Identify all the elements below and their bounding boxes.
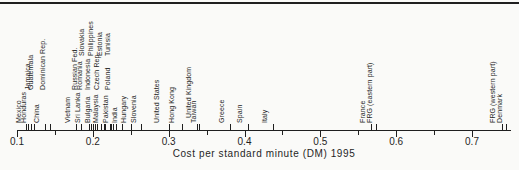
- country-label: Slovakia: [78, 29, 86, 56]
- x-axis-line: [17, 130, 511, 131]
- x-minor-tick: [207, 131, 208, 135]
- country-label: India: [111, 107, 119, 123]
- country-label: Estonia: [96, 32, 104, 56]
- country-label: Philippines: [87, 21, 95, 56]
- country-label: Sri Lanka: [74, 93, 82, 123]
- country-label: Italy: [261, 110, 269, 123]
- x-minor-tick: [282, 131, 283, 135]
- country-tick: [113, 124, 114, 130]
- country-tick: [76, 124, 77, 130]
- country-label: Honduras: [20, 92, 28, 123]
- country-tick: [273, 124, 274, 130]
- country-tick: [28, 124, 29, 130]
- strip-plot-figure: MexicoHondurasJamaicaGuatemalaChinaDomin…: [0, 0, 519, 170]
- country-label: Hong Kong: [168, 87, 176, 123]
- country-tick: [111, 124, 112, 130]
- country-tick: [502, 124, 503, 130]
- x-tick-label: 0.1: [4, 136, 30, 147]
- country-label: Dominican Rep.: [39, 39, 47, 90]
- country-tick: [141, 124, 142, 130]
- country-tick: [122, 124, 123, 130]
- country-tick: [506, 124, 507, 130]
- country-label: Spain: [236, 105, 244, 123]
- country-tick: [95, 124, 96, 130]
- x-minor-tick: [358, 131, 359, 135]
- country-tick: [197, 124, 198, 130]
- x-tick-label: 0.4: [232, 136, 258, 147]
- country-tick: [116, 124, 117, 130]
- x-tick-label: 0.6: [383, 136, 409, 147]
- country-tick: [248, 124, 249, 130]
- country-tick: [93, 124, 94, 130]
- country-label: Guatemala: [27, 55, 35, 90]
- x-minor-tick: [131, 131, 132, 135]
- country-tick: [376, 124, 377, 130]
- x-minor-tick: [55, 131, 56, 135]
- country-label: Poland: [104, 68, 112, 90]
- x-tick-label: 0.7: [459, 136, 485, 147]
- country-label: Malaysia: [92, 95, 100, 123]
- country-label: FRG (eastern part): [366, 62, 374, 123]
- country-label: Greece: [218, 99, 226, 123]
- country-label: Hungary: [120, 96, 128, 123]
- x-axis-title: Cost per standard minute (DM) 1995: [17, 148, 511, 159]
- country-tick: [31, 124, 32, 130]
- country-label: Slovenia: [130, 95, 138, 123]
- x-minor-tick: [434, 131, 435, 135]
- country-tick: [34, 124, 35, 130]
- country-label: Czech Rep.: [93, 52, 101, 90]
- country-label: Bulgaria: [84, 97, 92, 123]
- country-label: Romania: [76, 61, 84, 90]
- country-tick: [131, 124, 132, 130]
- country-label: Pakistan: [102, 95, 110, 123]
- country-label: Denmark: [496, 94, 504, 123]
- country-tick: [199, 124, 200, 130]
- country-tick: [50, 124, 51, 130]
- country-tick: [230, 124, 231, 130]
- x-tick-label: 0.2: [80, 136, 106, 147]
- country-label: Tunisia: [104, 33, 112, 56]
- country-tick: [105, 124, 106, 130]
- country-label: Vietnam: [64, 97, 72, 123]
- country-label: Taiwan: [190, 101, 198, 123]
- country-tick: [371, 124, 372, 130]
- x-tick-label: 0.3: [156, 136, 182, 147]
- country-label: United States: [153, 80, 161, 123]
- x-tick-label: 0.5: [307, 136, 333, 147]
- country-tick: [81, 124, 82, 130]
- country-tick: [45, 124, 46, 130]
- country-tick: [91, 124, 92, 130]
- country-label: China: [33, 104, 41, 123]
- country-tick: [169, 124, 170, 130]
- country-label: Indonesia: [84, 59, 92, 90]
- country-tick: [182, 124, 183, 130]
- top-rule: [0, 2, 519, 4]
- country-tick: [97, 124, 98, 130]
- country-tick: [26, 124, 27, 130]
- country-tick: [101, 124, 102, 130]
